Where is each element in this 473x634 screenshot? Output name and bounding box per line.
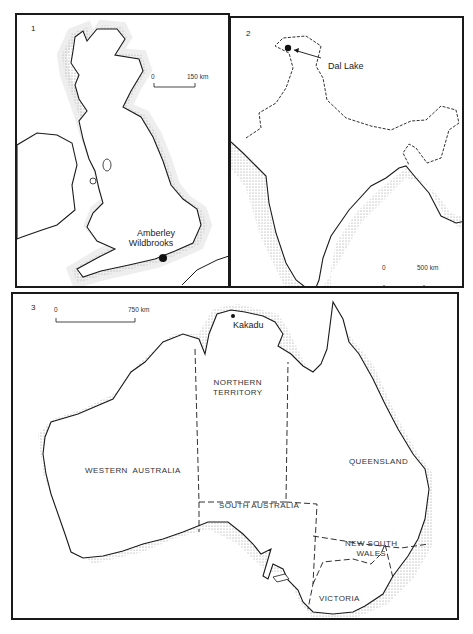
- site-marker-kakadu: [231, 314, 235, 318]
- state-label-western-australia: WESTERN AUSTRALIA: [85, 466, 181, 476]
- map-panel-india: 2 Dal Lake 0 500 km: [229, 16, 464, 288]
- scale-end: 500 km: [417, 264, 438, 271]
- state-label-new-south-wales: NEW SOUTH WALES: [345, 539, 398, 559]
- state-label-victoria: VICTORIA: [319, 594, 360, 604]
- scale-zero: 0: [54, 306, 58, 313]
- scale-zero: 0: [151, 73, 155, 80]
- state-label-south-australia: SOUTH AUSTRALIA: [219, 501, 299, 511]
- site-marker-amberley: [159, 254, 167, 262]
- ireland-coast: [17, 133, 77, 239]
- state-label-northern-territory: NORTHERN TERRITORY: [213, 378, 263, 398]
- scale-end: 750 km: [128, 306, 149, 313]
- india-map: [231, 18, 464, 288]
- site-label-dal-lake: Dal Lake: [328, 61, 364, 71]
- site-marker-dal-lake: [285, 45, 291, 51]
- arrow-head-icon: [294, 48, 299, 53]
- india-northern-border: [246, 36, 459, 165]
- panel-number: 3: [31, 303, 35, 312]
- panel-number: 2: [246, 29, 250, 38]
- scale-zero: 0: [382, 264, 386, 271]
- british-isles-map: [17, 15, 230, 288]
- state-label-queensland: QUEENSLAND: [349, 457, 408, 467]
- panel-number: 1: [31, 24, 35, 33]
- map-panel-australia: 3 0 750 km Kakadu NORTHERN TERRITORY WES…: [11, 292, 459, 620]
- scale-end: 150 km: [187, 73, 208, 80]
- site-label-kakadu: Kakadu: [233, 320, 264, 330]
- map-panel-british-isles: 1 0 150 km Amberley Wildbrooks: [15, 13, 230, 288]
- site-label-amberley: Amberley Wildbrooks: [137, 228, 175, 248]
